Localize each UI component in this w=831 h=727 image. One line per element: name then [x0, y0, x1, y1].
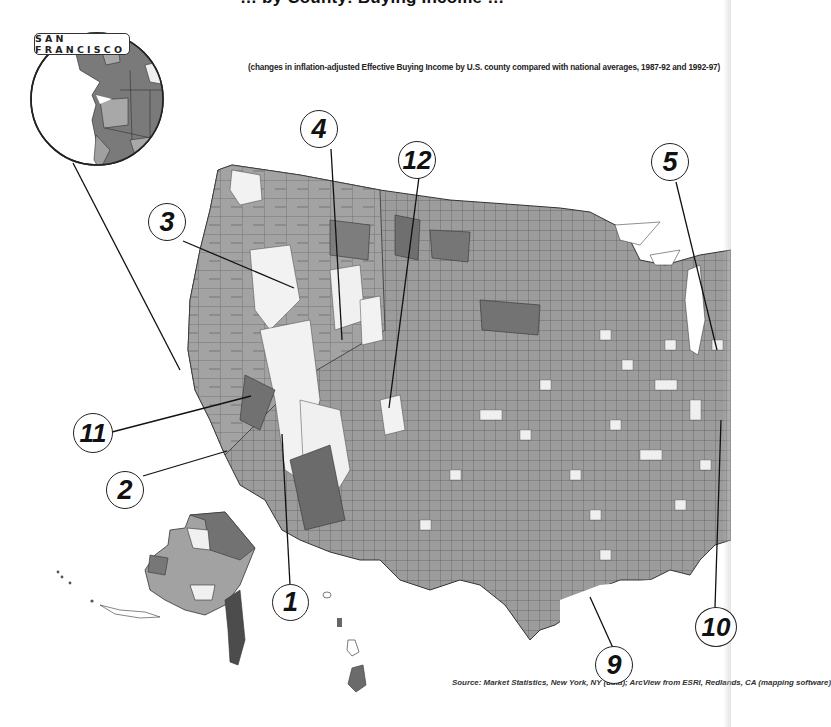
san-francisco-inset-label: SAN FRANCISCO — [34, 33, 130, 55]
callout-marker-4[interactable]: 4 — [300, 110, 338, 148]
callout-marker-11[interactable]: 11 — [73, 413, 113, 453]
alaska-map — [57, 512, 255, 665]
callout-marker-12[interactable]: 12 — [398, 141, 436, 179]
hawaii-map — [323, 592, 366, 692]
callout-marker-2[interactable]: 2 — [106, 471, 144, 509]
map-subtitle: (changes in inflation-adjusted Effective… — [248, 63, 720, 72]
callout-marker-1[interactable]: 1 — [272, 584, 309, 621]
callout-marker-9[interactable]: 9 — [595, 646, 633, 684]
callout-marker-10[interactable]: 10 — [695, 607, 737, 647]
callout-marker-5[interactable]: 5 — [651, 143, 689, 181]
source-credit: Source: Market Statistics, New York, NY … — [452, 678, 831, 687]
callout-marker-3[interactable]: 3 — [148, 203, 186, 241]
contiguous-us-map — [188, 165, 731, 640]
